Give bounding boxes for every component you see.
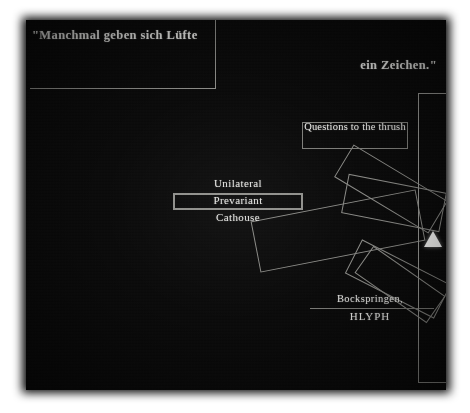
thrush-label: Questions to the thrush — [302, 120, 408, 134]
hlyph-label: HLYPH — [310, 310, 430, 322]
rail-top-tick — [418, 93, 446, 94]
quote-line-2: ein Zeichen." — [360, 58, 437, 73]
quote-line-1: "Manchmal geben sich Lüfte — [32, 28, 198, 43]
rail-bottom-tick — [418, 382, 446, 383]
bockspringen-rule — [310, 308, 434, 309]
dark-panel: "Manchmal geben sich Lüfte ein Zeichen."… — [26, 20, 446, 390]
rail-vertical-line — [418, 93, 419, 383]
triangle-up-icon — [424, 231, 442, 247]
artwork-canvas: "Manchmal geben sich Lüfte ein Zeichen."… — [0, 0, 470, 413]
bockspringen-label: Bockspringen, — [310, 293, 430, 304]
unilateral-label: Unilateral — [183, 177, 293, 189]
prevariant-label: Prevariant — [173, 194, 303, 206]
cathouse-label: Cathouse — [183, 211, 293, 223]
